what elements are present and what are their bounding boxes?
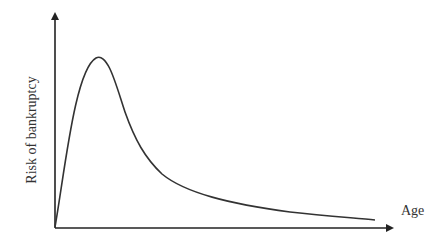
risk-curve <box>55 57 375 227</box>
chart-canvas <box>0 0 443 242</box>
x-axis-label: Age <box>401 203 424 219</box>
y-axis-label: Risk of bankruptcy <box>24 76 40 183</box>
